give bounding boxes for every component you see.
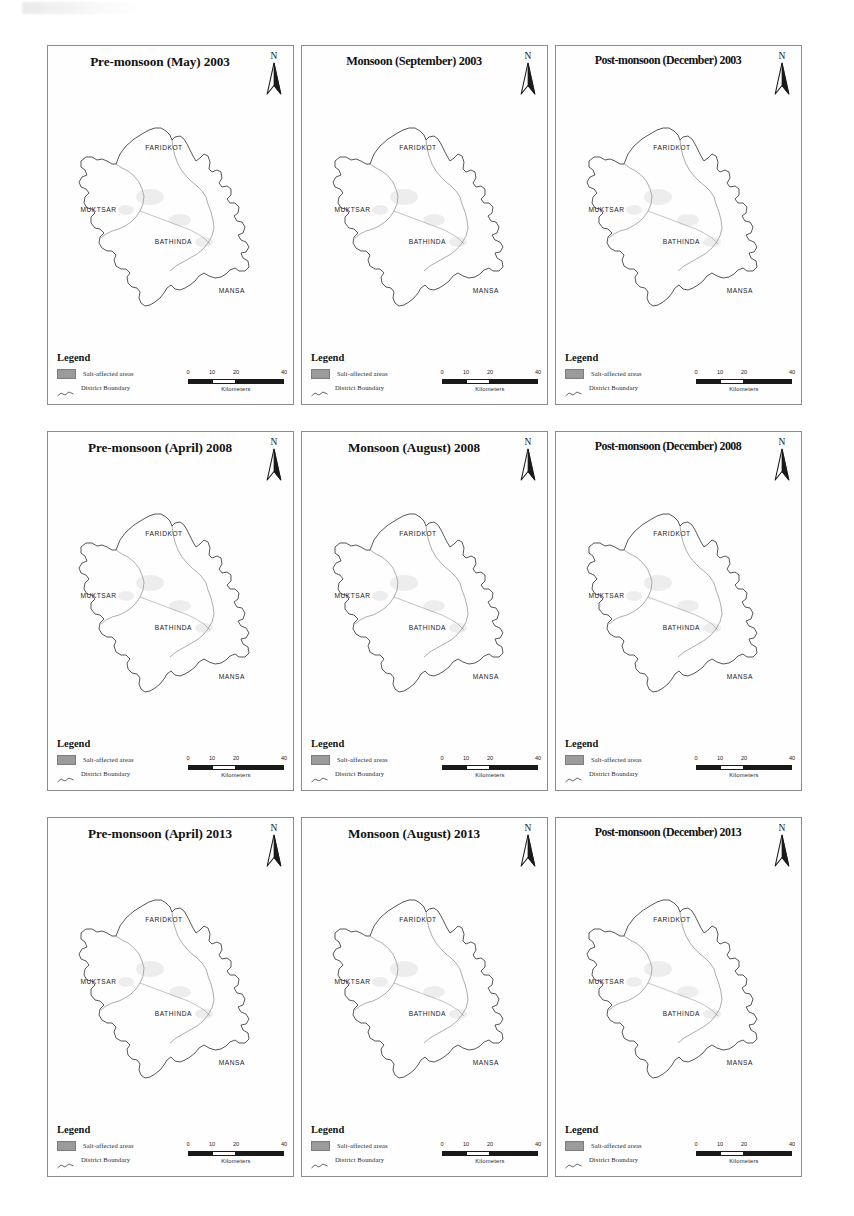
salt-affected-swatch-icon — [311, 755, 330, 765]
map-panel-p1[interactable]: Pre-monsoon (May) 2003 N — [47, 45, 294, 405]
legend-item-label: Salt-affected areas — [337, 756, 388, 763]
district-label-mansa: MANSA — [219, 287, 245, 294]
panel-title: Monsoon (August) 2013 — [310, 826, 518, 841]
scale-bar: 0102040 Kilometers — [696, 755, 792, 781]
legend-title: Legend — [565, 1124, 705, 1135]
legend-item-label: District Boundary — [81, 384, 130, 391]
legend-item-label: District Boundary — [589, 1156, 638, 1163]
district-map[interactable]: FARIDKOTMUKTSARBATHINDAMANSA — [54, 478, 288, 726]
scale-tick: 10 — [717, 369, 723, 375]
district-boundary-line-icon — [565, 1156, 582, 1164]
district-boundary-line-icon — [57, 770, 74, 778]
district-map[interactable]: FARIDKOTMUKTSARBATHINDAMANSA — [562, 864, 796, 1112]
scale-tick: 0 — [694, 369, 697, 375]
scale-bar: 0102040 Kilometers — [442, 1141, 538, 1167]
scale-tick: 40 — [281, 1141, 287, 1147]
district-map[interactable]: FARIDKOTMUKTSARBATHINDAMANSA — [308, 864, 542, 1112]
salt-affected-swatch-icon — [57, 1141, 76, 1151]
district-map[interactable]: FARIDKOTMUKTSARBATHINDAMANSA — [54, 864, 288, 1112]
scale-bar: 0102040 Kilometers — [188, 369, 284, 395]
district-label-faridkot: FARIDKOT — [145, 915, 182, 922]
legend-item-label: Salt-affected areas — [591, 756, 642, 763]
panel-title: Pre-monsoon (April) 2008 — [56, 440, 264, 455]
district-label-mansa: MANSA — [727, 1059, 753, 1066]
scale-tick: 40 — [789, 755, 795, 761]
legend-title: Legend — [311, 1124, 451, 1135]
district-map[interactable]: FARIDKOTMUKTSARBATHINDAMANSA — [562, 92, 796, 340]
legend-item-label: District Boundary — [589, 770, 638, 777]
scale-tick: 40 — [535, 1141, 541, 1147]
scale-bar-segments — [442, 765, 538, 770]
district-boundary-line-icon — [565, 770, 582, 778]
legend-title: Legend — [57, 1124, 197, 1135]
north-arrow-label: N — [518, 51, 538, 61]
north-arrow-label: N — [772, 51, 792, 61]
scale-tick: 0 — [694, 755, 697, 761]
district-label-muktsar: MUKTSAR — [334, 591, 370, 598]
legend-item-salt-affected: Salt-affected areas — [57, 1140, 197, 1151]
map-panel-p5[interactable]: Monsoon (August) 2008 N — [301, 431, 548, 791]
scale-bar: 0102040 Kilometers — [696, 369, 792, 395]
district-boundary-line-icon — [311, 384, 328, 392]
district-label-faridkot: FARIDKOT — [653, 143, 690, 150]
map-panel-grid: Pre-monsoon (May) 2003 N — [47, 45, 809, 1180]
scale-bar-unit-label: Kilometers — [696, 772, 792, 778]
map-panel-p2[interactable]: Monsoon (September) 2003 N — [301, 45, 548, 405]
legend-item-district-boundary: District Boundary — [565, 1154, 705, 1165]
scale-tick: 20 — [741, 755, 747, 761]
map-panel-p8[interactable]: Monsoon (August) 2013 N — [301, 817, 548, 1177]
scale-tick: 10 — [209, 369, 215, 375]
district-map-outline — [308, 864, 542, 1112]
district-label-faridkot: FARIDKOT — [399, 143, 436, 150]
legend: Legend Salt-affected areas District Boun… — [565, 738, 705, 782]
legend: Legend Salt-affected areas District Boun… — [565, 1124, 705, 1168]
scale-tick: 20 — [487, 1141, 493, 1147]
legend-item-salt-affected: Salt-affected areas — [57, 754, 197, 765]
scale-tick: 40 — [281, 755, 287, 761]
legend-title: Legend — [57, 738, 197, 749]
map-panel-p3[interactable]: Post-monsoon (December) 2003 N — [555, 45, 802, 405]
district-boundary-line-icon — [565, 384, 582, 392]
scale-tick: 10 — [717, 755, 723, 761]
district-label-bathinda: BATHINDA — [409, 237, 446, 244]
legend: Legend Salt-affected areas District Boun… — [57, 738, 197, 782]
district-map[interactable]: FARIDKOTMUKTSARBATHINDAMANSA — [562, 478, 796, 726]
district-label-muktsar: MUKTSAR — [80, 205, 116, 212]
district-boundary-line-icon — [57, 384, 74, 392]
legend-item-label: District Boundary — [335, 384, 384, 391]
legend-item-salt-affected: Salt-affected areas — [565, 754, 705, 765]
map-panel-p4[interactable]: Pre-monsoon (April) 2008 N — [47, 431, 294, 791]
legend-title: Legend — [565, 738, 705, 749]
salt-affected-swatch-icon — [311, 369, 330, 379]
district-label-muktsar: MUKTSAR — [334, 205, 370, 212]
map-panel-p6[interactable]: Post-monsoon (December) 2008 N — [555, 431, 802, 791]
scale-bar-segments — [696, 765, 792, 770]
scale-bar-ticks: 0102040 — [442, 1141, 538, 1150]
scale-tick: 40 — [535, 369, 541, 375]
district-label-mansa: MANSA — [473, 1059, 499, 1066]
legend-item-salt-affected: Salt-affected areas — [311, 754, 451, 765]
district-label-muktsar: MUKTSAR — [588, 591, 624, 598]
scale-tick: 20 — [233, 369, 239, 375]
district-map[interactable]: FARIDKOTMUKTSARBATHINDAMANSA — [308, 92, 542, 340]
panel-title: Post-monsoon (December) 2003 — [564, 54, 772, 68]
scale-bar: 0102040 Kilometers — [188, 755, 284, 781]
north-arrow-label: N — [518, 823, 538, 833]
scale-tick: 0 — [694, 1141, 697, 1147]
map-panel-p7[interactable]: Pre-monsoon (April) 2013 N — [47, 817, 294, 1177]
district-map[interactable]: FARIDKOTMUKTSARBATHINDAMANSA — [54, 92, 288, 340]
map-panel-p9[interactable]: Post-monsoon (December) 2013 N — [555, 817, 802, 1177]
scale-bar-unit-label: Kilometers — [696, 1158, 792, 1164]
district-map[interactable]: FARIDKOTMUKTSARBATHINDAMANSA — [308, 478, 542, 726]
legend-item-district-boundary: District Boundary — [57, 1154, 197, 1165]
district-label-bathinda: BATHINDA — [155, 623, 192, 630]
district-label-faridkot: FARIDKOT — [399, 915, 436, 922]
legend: Legend Salt-affected areas District Boun… — [565, 352, 705, 396]
legend-item-label: Salt-affected areas — [337, 370, 388, 377]
salt-affected-swatch-icon — [565, 369, 584, 379]
scale-tick: 0 — [440, 755, 443, 761]
district-label-mansa: MANSA — [473, 287, 499, 294]
scale-bar-unit-label: Kilometers — [188, 386, 284, 392]
district-label-bathinda: BATHINDA — [663, 237, 700, 244]
district-map-outline — [562, 478, 796, 726]
